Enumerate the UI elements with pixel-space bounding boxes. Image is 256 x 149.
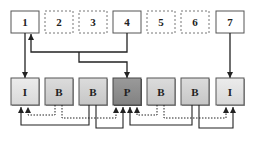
type-box-i-first: I	[11, 78, 40, 106]
type-box-i-last: I	[216, 78, 245, 106]
type-label-i-last: I	[228, 86, 232, 98]
frame-label-1: 1	[22, 16, 28, 28]
dotted-ref-b3-to-i	[164, 105, 226, 118]
type-box-b-1: B	[45, 78, 74, 106]
top-row: 1 2 3 4 5 6 7	[11, 11, 244, 33]
arrow-branch-to-p	[79, 52, 127, 78]
frame-box-5: 5	[147, 11, 175, 33]
type-label-b-4: B	[191, 86, 199, 98]
type-box-b-4: B	[181, 78, 210, 106]
frame-label-2: 2	[56, 16, 62, 28]
frame-label-4: 4	[124, 16, 130, 28]
gop-diagram: 1 2 3 4 5 6 7	[0, 0, 256, 149]
frame-box-3: 3	[79, 11, 107, 33]
bottom-row: I B B P B B I	[11, 78, 245, 106]
frame-label-5: 5	[158, 16, 164, 28]
top-connectors	[25, 33, 230, 78]
frame-box-4: 4	[113, 11, 141, 33]
frame-label-7: 7	[227, 16, 233, 28]
type-box-p: P	[113, 78, 142, 106]
frame-box-7: 7	[216, 11, 244, 33]
frame-box-2: 2	[45, 11, 73, 33]
solid-ref-b2-to-p	[96, 105, 123, 128]
type-label-i-first: I	[23, 86, 27, 98]
frame-box-6: 6	[181, 11, 209, 33]
type-label-b-2: B	[89, 86, 97, 98]
type-label-b-3: B	[157, 86, 165, 98]
type-box-b-2: B	[79, 78, 108, 106]
frame-label-3: 3	[90, 16, 96, 28]
reference-connectors	[21, 105, 233, 128]
frame-label-6: 6	[192, 16, 198, 28]
solid-ref-b4-to-i	[199, 105, 233, 128]
dotted-ref-b1-to-i	[28, 105, 55, 115]
type-box-b-3: B	[147, 78, 176, 106]
type-label-p: P	[124, 86, 131, 98]
frame-box-1: 1	[11, 11, 39, 33]
dotted-ref-b3-to-p	[137, 105, 157, 115]
arrow-4-to-1	[31, 33, 127, 52]
type-label-b-1: B	[55, 86, 63, 98]
